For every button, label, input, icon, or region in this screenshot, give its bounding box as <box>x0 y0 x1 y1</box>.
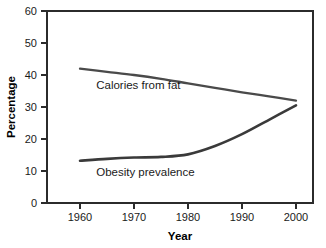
y-tick-label-50: 50 <box>25 37 37 49</box>
y-tick-label-0: 0 <box>31 197 37 209</box>
chart-figure: 0 10 20 30 40 50 60 1960 1970 1980 1990 … <box>0 0 326 248</box>
y-tick-label-30: 30 <box>25 101 37 113</box>
x-tick-label-1960: 1960 <box>68 211 92 223</box>
x-axis-title: Year <box>168 230 193 242</box>
x-tick-label-1980: 1980 <box>176 211 200 223</box>
series-annotation-calories-from-fat: Calories from fat <box>96 79 181 91</box>
chart-background <box>0 0 326 248</box>
y-tick-label-60: 60 <box>25 5 37 17</box>
x-tick-label-2000: 2000 <box>284 211 308 223</box>
y-tick-label-20: 20 <box>25 133 37 145</box>
series-annotation-obesity-prevalence: Obesity prevalence <box>96 166 194 178</box>
y-tick-label-40: 40 <box>25 69 37 81</box>
y-axis-title: Percentage <box>5 76 17 138</box>
x-tick-label-1990: 1990 <box>230 211 254 223</box>
x-tick-label-1970: 1970 <box>122 211 146 223</box>
y-tick-label-10: 10 <box>25 165 37 177</box>
line-chart: 0 10 20 30 40 50 60 1960 1970 1980 1990 … <box>0 0 326 248</box>
